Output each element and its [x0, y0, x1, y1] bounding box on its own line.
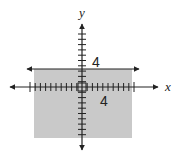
boundary-line-label: 4	[92, 54, 100, 70]
x-axis-value-label: 4	[100, 93, 108, 109]
x-axis-label: x	[164, 79, 171, 94]
coordinate-plane-diagram: y x 4 4	[0, 0, 179, 159]
shaded-region	[34, 69, 132, 138]
y-axis-label: y	[77, 5, 85, 20]
